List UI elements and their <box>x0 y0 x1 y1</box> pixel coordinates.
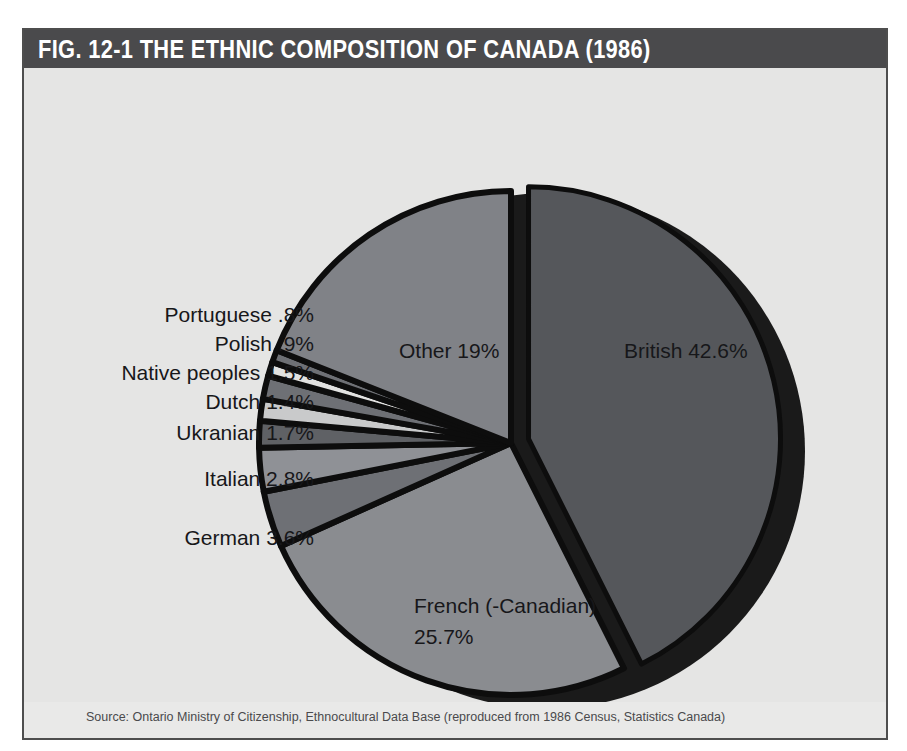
source-bar: Source: Ontario Ministry of Citizenship,… <box>24 702 886 738</box>
figure-title-bar: FIG. 12-1 THE ETHNIC COMPOSITION OF CANA… <box>24 30 886 68</box>
figure-title: FIG. 12-1 THE ETHNIC COMPOSITION OF CANA… <box>38 34 651 65</box>
pie-callout-portuguese: Portuguese .8% <box>165 303 314 326</box>
pie-callout-dutch: Dutch 1.4% <box>205 390 314 413</box>
pie-callout-italian: Italian 2.8% <box>204 467 314 490</box>
chart-plot-area: British 42.6%French (-Canadian)25.7%Othe… <box>24 68 886 706</box>
pie-label-other: Other 19% <box>399 339 499 362</box>
pie-label-british: British 42.6% <box>624 339 748 362</box>
pie-callout-german: German 3.6% <box>184 526 314 549</box>
source-note: Source: Ontario Ministry of Citizenship,… <box>86 710 725 724</box>
figure-container: FIG. 12-1 THE ETHNIC COMPOSITION OF CANA… <box>22 28 888 740</box>
pie-label-french-line2: 25.7% <box>414 625 474 648</box>
pie-chart: British 42.6%French (-Canadian)25.7%Othe… <box>24 68 890 706</box>
pie-callout-polish: Polish .9% <box>215 332 314 355</box>
pie-callout-ukranian: Ukranian 1.7% <box>176 421 314 444</box>
pie-label-french-line1: French (-Canadian) <box>414 594 596 617</box>
pie-callout-native: Native peoples 1.5% <box>121 361 314 384</box>
